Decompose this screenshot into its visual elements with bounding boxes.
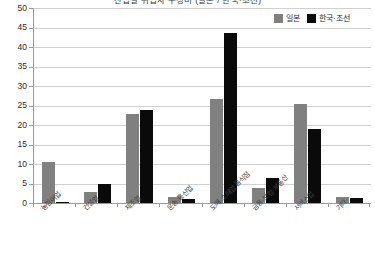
y-axis: 05101520253035404550: [0, 0, 33, 260]
bar-group: [210, 8, 237, 203]
bar-group: [294, 8, 321, 203]
chart-title-strip: 산업별 취업자 구성비 (일본 / 한국·조선): [0, 0, 375, 6]
bar-group: [84, 8, 111, 203]
legend-label-korea: 한국·조선: [319, 15, 350, 23]
legend-entry-japan[interactable]: 일본: [274, 14, 300, 23]
chart-title: 산업별 취업자 구성비 (일본 / 한국·조선): [0, 0, 375, 5]
bar-japan[interactable]: [126, 114, 139, 203]
y-axis-tick-label: 35: [2, 62, 27, 71]
y-axis-tick-label: 50: [2, 4, 27, 13]
y-axis-tick-label: 10: [2, 160, 27, 169]
y-axis-tick-label: 15: [2, 140, 27, 149]
y-axis-tick-label: 0: [2, 199, 27, 208]
bar-korea[interactable]: [224, 33, 237, 203]
bar-group: [168, 8, 195, 203]
y-axis-tick-label: 30: [2, 82, 27, 91]
plot-area: [33, 8, 371, 204]
y-axis-tick-label: 40: [2, 43, 27, 52]
bar-japan[interactable]: [210, 99, 223, 203]
legend-swatch-icon-korea: [307, 14, 316, 23]
y-axis-tick-label: 5: [2, 179, 27, 188]
bar-group: [42, 8, 69, 203]
x-axis-labels: 농림어업건설업제조업운송·통신업도매·소매업 음식점금융·보험·부동산서비스업기…: [33, 207, 375, 260]
legend: 일본 한국·조선: [272, 13, 352, 24]
bar-group: [252, 8, 279, 203]
y-axis-tick-label: 45: [2, 23, 27, 32]
bars-layer: [34, 8, 371, 203]
y-axis-tick-label: 20: [2, 121, 27, 130]
bar-korea[interactable]: [140, 110, 153, 203]
bar-japan[interactable]: [294, 104, 307, 203]
bar-korea[interactable]: [98, 184, 111, 203]
bar-group: [336, 8, 363, 203]
legend-label-japan: 일본: [286, 15, 300, 23]
bar-group: [126, 8, 153, 203]
legend-entry-korea[interactable]: 한국·조선: [307, 14, 350, 23]
y-axis-tick-label: 25: [2, 101, 27, 110]
bar-chart: 산업별 취업자 구성비 (일본 / 한국·조선) 051015202530354…: [0, 0, 375, 260]
legend-swatch-icon-japan: [274, 14, 283, 23]
